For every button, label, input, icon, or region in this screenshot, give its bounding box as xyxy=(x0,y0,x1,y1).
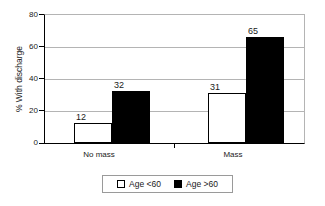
bar-mass-age-under-60 xyxy=(208,93,246,143)
legend-label-age-under-60: Age <60 xyxy=(129,180,161,189)
y-tick-label-80: 80 xyxy=(12,11,38,19)
y-tick-label-0: 0 xyxy=(12,139,38,147)
bar-chart: % With discharge 80 60 40 20 0 12 32 31 … xyxy=(0,0,325,206)
x-category-label-mass: Mass xyxy=(197,150,269,159)
bar-value-no-mass-age-over-60: 32 xyxy=(100,81,138,90)
legend-label-age-over-60: Age >60 xyxy=(186,180,218,189)
y-tick-label-20: 20 xyxy=(12,107,38,115)
bar-no-mass-age-over-60 xyxy=(112,91,150,143)
legend-entry-age-over-60: Age >60 xyxy=(174,180,218,189)
x-category-label-no-mass: No mass xyxy=(63,150,135,159)
bar-mass-age-over-60 xyxy=(246,37,284,143)
chart-legend: Age <60 Age >60 xyxy=(102,175,233,193)
bar-no-mass-age-under-60 xyxy=(74,123,112,143)
legend-swatch-icon-age-over-60 xyxy=(174,180,182,188)
bar-value-no-mass-age-under-60: 12 xyxy=(62,113,100,122)
y-tick-label-60: 60 xyxy=(12,43,38,51)
x-tick-mark-group-separator xyxy=(174,144,175,148)
y-tick-label-40: 40 xyxy=(12,75,38,83)
bar-value-mass-age-under-60: 31 xyxy=(196,83,234,92)
legend-swatch-icon-age-under-60 xyxy=(117,180,125,188)
legend-entry-age-under-60: Age <60 xyxy=(117,180,161,189)
bar-value-mass-age-over-60: 65 xyxy=(234,27,272,36)
